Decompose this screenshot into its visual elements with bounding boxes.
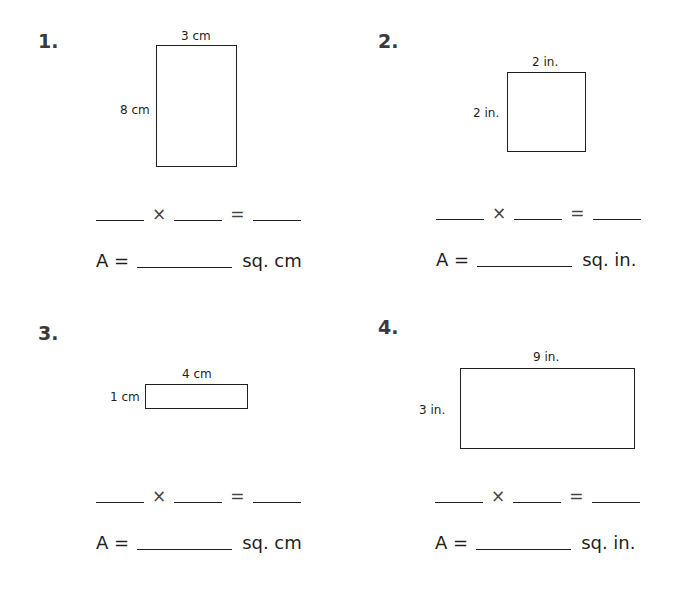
factor-1-blank[interactable] (96, 220, 144, 221)
problem-number: 2. (378, 30, 398, 52)
times-sign: × (152, 203, 166, 225)
area-prefix: A = (96, 250, 129, 272)
times-sign: × (491, 485, 505, 507)
problem-number: 1. (38, 30, 58, 52)
multiplication-equation: × = (96, 485, 301, 507)
multiplication-equation: × = (435, 485, 640, 507)
rectangle-figure (156, 45, 237, 167)
square-figure (507, 72, 586, 152)
multiplication-equation: × = (96, 203, 301, 225)
area-prefix: A = (435, 532, 468, 554)
factor-2-blank[interactable] (174, 220, 222, 221)
height-label: 2 in. (473, 106, 499, 120)
factor-2-blank[interactable] (174, 502, 222, 503)
area-equation: A = sq. cm (96, 250, 302, 272)
height-label: 1 cm (110, 390, 140, 404)
rectangle-figure (460, 368, 635, 449)
equals-sign: = (569, 485, 583, 507)
equals-sign: = (570, 202, 584, 224)
width-label: 9 in. (533, 350, 559, 364)
multiplication-equation: × = (436, 202, 641, 224)
area-equation: A = sq. in. (435, 532, 636, 554)
rectangle-figure (145, 384, 248, 409)
area-blank[interactable] (477, 266, 572, 267)
width-label: 4 cm (182, 367, 212, 381)
equals-sign: = (230, 203, 244, 225)
area-blank[interactable] (137, 549, 232, 550)
area-prefix: A = (436, 249, 469, 271)
area-unit: sq. cm (242, 532, 302, 554)
height-label: 8 cm (120, 103, 150, 117)
problem-number: 4. (378, 316, 398, 338)
factor-1-blank[interactable] (96, 502, 144, 503)
area-prefix: A = (96, 532, 129, 554)
area-equation: A = sq. in. (436, 249, 637, 271)
area-blank[interactable] (137, 267, 232, 268)
product-blank[interactable] (253, 502, 301, 503)
factor-1-blank[interactable] (436, 219, 484, 220)
height-label: 3 in. (419, 403, 445, 417)
factor-2-blank[interactable] (513, 502, 561, 503)
area-unit: sq. in. (581, 532, 635, 554)
problem-number: 3. (38, 322, 58, 344)
product-blank[interactable] (253, 220, 301, 221)
factor-1-blank[interactable] (435, 502, 483, 503)
width-label: 2 in. (532, 55, 558, 69)
times-sign: × (492, 202, 506, 224)
area-unit: sq. cm (242, 250, 302, 272)
area-equation: A = sq. cm (96, 532, 302, 554)
product-blank[interactable] (592, 502, 640, 503)
product-blank[interactable] (593, 219, 641, 220)
factor-2-blank[interactable] (514, 219, 562, 220)
equals-sign: = (230, 485, 244, 507)
area-blank[interactable] (476, 549, 571, 550)
area-unit: sq. in. (582, 249, 636, 271)
times-sign: × (152, 485, 166, 507)
width-label: 3 cm (181, 29, 211, 43)
